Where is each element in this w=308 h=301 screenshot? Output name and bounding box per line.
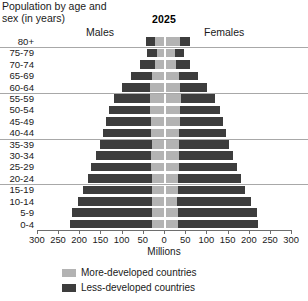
segment-more-developed [166, 60, 177, 69]
pyramid-row [37, 173, 291, 184]
pyramid-row [37, 219, 291, 230]
age-label: 65-69 [0, 70, 34, 81]
segment-less-developed [180, 37, 190, 46]
legend: More-developed countriesLess-developed c… [62, 266, 197, 296]
pyramid-row [37, 116, 291, 127]
bar-males [96, 151, 164, 160]
age-label: 80+ [0, 36, 34, 47]
segment-more-developed [152, 220, 164, 229]
pyramid-row [37, 104, 291, 115]
segment-more-developed [166, 117, 180, 126]
segment-more-developed [166, 186, 178, 195]
segment-more-developed [166, 151, 179, 160]
segment-more-developed [155, 37, 164, 46]
bar-males [70, 220, 164, 229]
bar-females [166, 49, 185, 58]
plot-area [37, 36, 291, 230]
pyramid-row [37, 127, 291, 138]
segment-more-developed [166, 197, 177, 206]
segment-more-developed [150, 106, 164, 115]
segment-less-developed [178, 220, 259, 229]
segment-more-developed [151, 117, 164, 126]
bar-males [88, 174, 164, 183]
bar-females [166, 60, 191, 69]
age-label: 55-59 [0, 93, 34, 104]
segment-less-developed [96, 151, 152, 160]
segment-more-developed [152, 174, 164, 183]
bar-males [78, 197, 164, 206]
segment-more-developed [152, 208, 164, 217]
segment-less-developed [179, 163, 238, 172]
segment-more-developed [152, 197, 164, 206]
pyramid-row [37, 93, 291, 104]
bar-females [166, 220, 258, 229]
segment-more-developed [166, 49, 175, 58]
bar-females [166, 72, 199, 81]
segment-more-developed [152, 186, 164, 195]
bar-males [91, 163, 164, 172]
bar-females [166, 94, 215, 103]
segment-less-developed [179, 129, 226, 138]
segment-more-developed [157, 49, 164, 58]
segment-less-developed [78, 197, 153, 206]
segment-more-developed [166, 140, 179, 149]
segment-less-developed [70, 220, 152, 229]
bar-males [146, 37, 164, 46]
age-label: 70-74 [0, 59, 34, 70]
pyramid-row [37, 139, 291, 150]
segment-more-developed [155, 60, 164, 69]
bar-males [140, 60, 164, 69]
pyramid-row [37, 70, 291, 81]
legend-swatch-less [62, 284, 76, 292]
pyramid-row [37, 82, 291, 93]
pyramid-row [37, 47, 291, 58]
segment-more-developed [150, 94, 164, 103]
segment-less-developed [179, 151, 233, 160]
pyramid-row [37, 36, 291, 47]
legend-item: More-developed countries [62, 266, 197, 279]
bar-males [109, 106, 164, 115]
segment-less-developed [181, 94, 215, 103]
segment-more-developed [151, 151, 164, 160]
age-label: 75-79 [0, 47, 34, 58]
bar-males [131, 72, 164, 81]
segment-less-developed [146, 37, 154, 46]
age-label: 45-49 [0, 116, 34, 127]
bar-males [114, 94, 164, 103]
separator-line [0, 139, 308, 140]
x-axis-tick-label: 300 [278, 234, 304, 245]
segment-less-developed [91, 163, 151, 172]
segment-less-developed [176, 60, 190, 69]
bar-females [166, 208, 257, 217]
bar-females [166, 37, 190, 46]
age-label: 40-44 [0, 127, 34, 138]
legend-label: More-developed countries [81, 267, 197, 278]
segment-less-developed [180, 83, 207, 92]
year-label: 2025 [0, 13, 308, 25]
segment-less-developed [178, 174, 241, 183]
segment-less-developed [88, 174, 152, 183]
segment-less-developed [178, 208, 257, 217]
segment-less-developed [114, 94, 150, 103]
separator-line [0, 93, 308, 94]
segment-less-developed [103, 129, 151, 138]
segment-more-developed [152, 72, 164, 81]
segment-more-developed [166, 220, 178, 229]
x-axis-title: Millions [0, 246, 308, 257]
pyramid-row [37, 196, 291, 207]
bar-males [100, 140, 164, 149]
segment-less-developed [179, 140, 229, 149]
age-label: 5-9 [0, 207, 34, 218]
segment-more-developed [151, 163, 164, 172]
bar-females [166, 151, 233, 160]
age-label: 15-19 [0, 184, 34, 195]
segment-more-developed [166, 94, 181, 103]
segment-less-developed [179, 72, 199, 81]
bar-males [122, 83, 164, 92]
age-label: 50-54 [0, 104, 34, 115]
bar-females [166, 117, 223, 126]
segment-less-developed [175, 49, 184, 58]
age-label: 0-4 [0, 219, 34, 230]
separator-line [0, 47, 308, 48]
pyramid-row [37, 150, 291, 161]
